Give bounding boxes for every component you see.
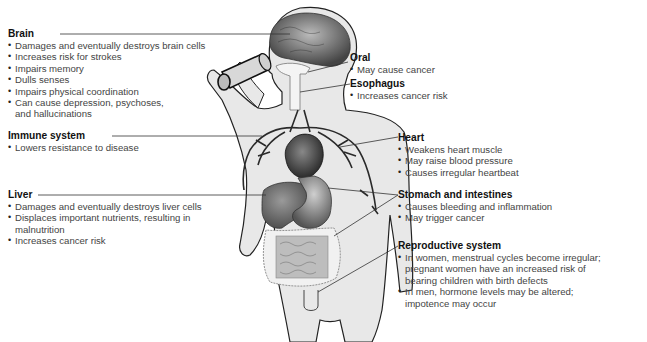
esophagus-item: Increases cancer risk [350, 90, 490, 101]
label-oral: Oral May cause cancer [350, 52, 490, 75]
label-reproductive-system: Reproductive system In women, menstrual … [398, 240, 620, 309]
heart-item: Causes irregular heartbeat [398, 167, 558, 178]
immune-item: Lowers resistance to disease [8, 142, 228, 153]
stomach-item: May trigger cancer [398, 212, 598, 223]
brain-item: Damages and eventually destroys brain ce… [8, 40, 228, 51]
intestines-organ [263, 228, 340, 286]
label-heart: Heart Weakens heart muscle May raise blo… [398, 132, 558, 178]
brain-item: Can cause depression, psychoses, and hal… [8, 97, 177, 120]
label-esophagus: Esophagus Increases cancer risk [350, 78, 490, 101]
heart-item: Weakens heart muscle [398, 144, 558, 155]
brain-item: Impairs memory [8, 63, 228, 74]
heart-item: May raise blood pressure [398, 155, 558, 166]
esophagus-title: Esophagus [350, 78, 490, 90]
label-liver: Liver Damages and eventually destroys li… [8, 189, 208, 247]
liver-item: Damages and eventually destroys liver ce… [8, 201, 208, 212]
oral-title: Oral [350, 52, 490, 64]
brain-title: Brain [8, 28, 228, 40]
brain-item: Increases risk for strokes [8, 51, 228, 62]
brain-item: Impairs physical coordination [8, 86, 228, 97]
immune-title: Immune system [8, 130, 228, 142]
liver-title: Liver [8, 189, 208, 201]
heart-title: Heart [398, 132, 558, 144]
stomach-item: Causes bleeding and inflammation [398, 201, 598, 212]
liver-item: Increases cancer risk [8, 235, 208, 246]
label-brain: Brain Damages and eventually destroys br… [8, 28, 228, 120]
reproductive-title: Reproductive system [398, 240, 620, 252]
reproductive-item: In women, menstrual cycles become irregu… [398, 252, 620, 286]
brain-item: Dulls senses [8, 74, 228, 85]
oral-item: May cause cancer [350, 64, 490, 75]
liver-item: Displaces important nutrients, resulting… [8, 212, 208, 235]
reproductive-organ [304, 290, 318, 311]
reproductive-item: In men, hormone levels may be altered; i… [398, 286, 580, 309]
stomach-title: Stomach and intestines [398, 189, 598, 201]
label-stomach-intestines: Stomach and intestines Causes bleeding a… [398, 189, 598, 224]
label-immune-system: Immune system Lowers resistance to disea… [8, 130, 228, 153]
